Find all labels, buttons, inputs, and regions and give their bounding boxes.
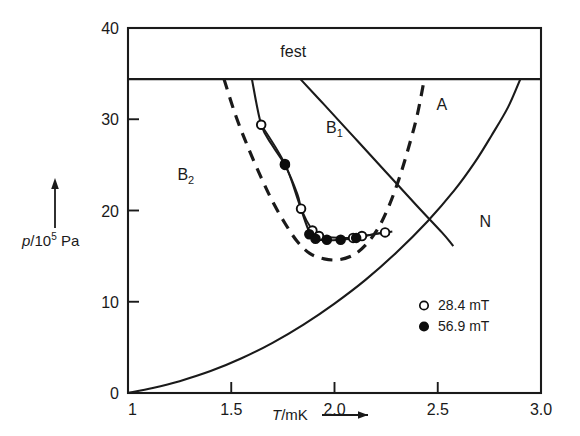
- data-point-filled: [336, 235, 345, 244]
- legend-label: 56.9 mT: [438, 318, 490, 334]
- data-point-filled: [323, 235, 332, 244]
- x-tick-label: 1.5: [220, 401, 242, 418]
- y-tick-label: 40: [101, 20, 119, 37]
- phase-diagram-svg: 01020304011.52.02.53.0 festB2B1AN 28.4 m…: [0, 0, 580, 436]
- y-tick-label: 30: [101, 111, 119, 128]
- x-axis-label: T/mK: [272, 406, 308, 423]
- legend-marker-open-circle: [420, 301, 428, 309]
- y-tick-label: 0: [110, 385, 119, 402]
- x-tick-label: 2.5: [427, 401, 449, 418]
- x-tick-label: 3.0: [530, 401, 552, 418]
- legend-label: 28.4 mT: [438, 297, 490, 313]
- data-point-filled: [281, 161, 290, 170]
- data-point-open: [257, 120, 266, 129]
- y-axis-label: p/105 Pa: [21, 231, 80, 249]
- data-point-open: [381, 228, 390, 237]
- region-label-N: N: [479, 213, 491, 230]
- y-tick-label: 20: [101, 203, 119, 220]
- data-point-filled: [352, 234, 361, 243]
- x-tick-label: 1: [128, 401, 137, 418]
- data-point-open: [297, 204, 306, 213]
- phase-diagram-figure: 01020304011.52.02.53.0 festB2B1AN 28.4 m…: [0, 0, 580, 436]
- region-label-fest: fest: [280, 43, 306, 60]
- data-point-filled: [311, 234, 320, 243]
- figure-background: [0, 0, 580, 436]
- y-tick-label: 10: [101, 294, 119, 311]
- region-label-A: A: [437, 96, 448, 113]
- legend-marker-filled-circle: [420, 322, 428, 330]
